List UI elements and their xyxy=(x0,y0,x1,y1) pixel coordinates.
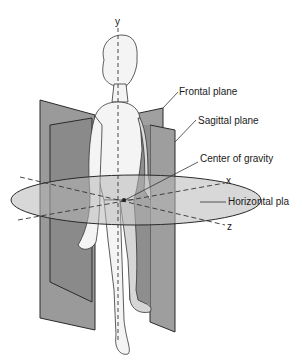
horizontal-plane-label: Horizontal pla xyxy=(228,197,289,207)
frontal-leader xyxy=(163,92,178,108)
y-axis-label: y xyxy=(115,17,120,27)
sagittal-plane-label: Sagittal plane xyxy=(198,116,259,126)
frontal-plane-label: Frontal plane xyxy=(179,87,237,97)
center-of-gravity-point xyxy=(122,198,126,202)
z-axis-label: z xyxy=(227,222,232,232)
center-of-gravity-label: Center of gravity xyxy=(200,154,273,164)
sagittal-leader xyxy=(175,120,196,142)
body-planes-diagram xyxy=(0,0,302,362)
x-axis-label: x xyxy=(226,176,231,186)
horizontal-plane xyxy=(11,175,261,225)
sagittal-plane-right xyxy=(150,125,175,332)
